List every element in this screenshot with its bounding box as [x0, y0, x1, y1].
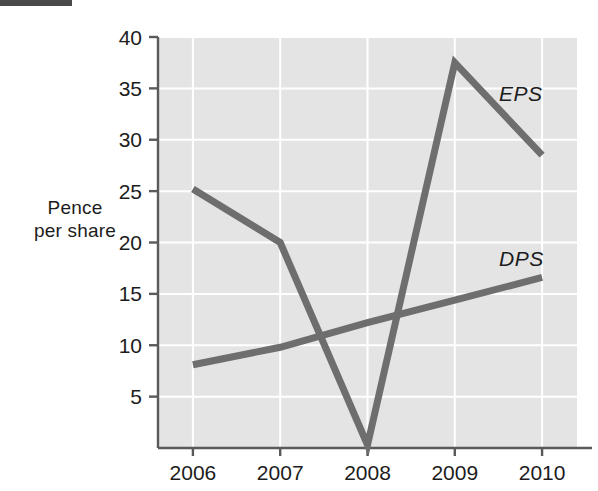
y-tick-label: 35	[119, 77, 142, 100]
y-tick-label: 40	[119, 26, 142, 49]
y-tick-label: 20	[119, 231, 142, 254]
x-tick-label: 2006	[170, 461, 217, 484]
x-tick-label: 2007	[257, 461, 304, 484]
y-tick-label: 5	[130, 385, 142, 408]
y-axis-ticks: 510152025303540	[119, 26, 158, 409]
line-chart-plot: 510152025303540 20062007200820092010 EPS…	[0, 0, 598, 491]
y-tick-label: 25	[119, 180, 142, 203]
y-tick-label: 15	[119, 282, 142, 305]
chart-figure: Pence per share 510152025303540 20062007…	[0, 0, 598, 491]
series-label-eps: EPS	[499, 82, 543, 105]
x-tick-label: 2008	[344, 461, 391, 484]
x-tick-label: 2009	[431, 461, 478, 484]
y-tick-label: 10	[119, 334, 142, 357]
x-tick-label: 2010	[519, 461, 566, 484]
series-label-dps: DPS	[499, 247, 544, 270]
y-tick-label: 30	[119, 128, 142, 151]
